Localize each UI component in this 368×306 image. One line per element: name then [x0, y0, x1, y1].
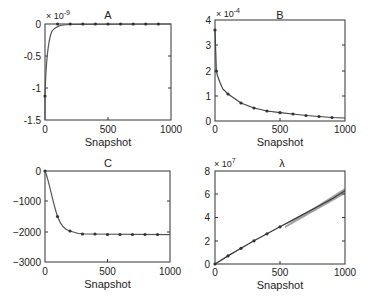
panel-b-title: B: [276, 9, 283, 21]
panel-a-markers: [43, 22, 160, 97]
panel-b-xlabel: Snapshot: [257, 136, 303, 148]
svg-text:6: 6: [204, 189, 210, 200]
svg-text:0: 0: [35, 19, 41, 30]
svg-text:-1: -1: [32, 83, 41, 94]
svg-text:0: 0: [204, 259, 210, 270]
svg-text:4: 4: [205, 15, 211, 26]
svg-text:-0.5: -0.5: [24, 51, 42, 62]
svg-text:0: 0: [212, 124, 218, 135]
svg-text:500: 500: [272, 124, 289, 135]
panel-b-markers: [213, 28, 333, 119]
panel-b-line: [215, 30, 345, 118]
svg-text:500: 500: [100, 124, 117, 135]
svg-text:500: 500: [99, 266, 116, 277]
panel-a-axes: [45, 24, 171, 120]
svg-text:2: 2: [204, 236, 210, 247]
svg-text:1000: 1000: [160, 124, 183, 135]
panel-lambda: × 107 λ 8 6 4 2 0 0 500 1000 Snapshot: [204, 157, 356, 291]
panel-b-yticks: 4 3 2 1 0: [205, 15, 345, 127]
panel-c-title: C: [104, 157, 112, 169]
panel-lambda-title: λ: [279, 157, 285, 169]
svg-text:−3000: −3000: [13, 257, 42, 268]
svg-text:4: 4: [204, 212, 210, 223]
panel-c-axes: [45, 171, 170, 262]
panel-a-multiplier: × 10-9: [46, 9, 70, 21]
panel-b: × 10-4 B 4 3 2 1 0 0 500 1000 Snapshot: [205, 7, 356, 148]
svg-text:−2000: −2000: [13, 227, 42, 238]
svg-text:1000: 1000: [334, 124, 357, 135]
panel-lambda-yticks: 8 6 4 2 0: [204, 166, 345, 270]
panel-a-xlabel: Snapshot: [85, 136, 131, 148]
svg-text:0: 0: [35, 166, 41, 177]
panel-c-xlabel: Snapshot: [84, 278, 130, 290]
svg-text:1000: 1000: [334, 267, 357, 278]
svg-text:0: 0: [42, 266, 48, 277]
svg-text:500: 500: [272, 267, 289, 278]
panel-a-line: [45, 24, 171, 96]
svg-text:3: 3: [205, 40, 211, 51]
svg-text:8: 8: [204, 166, 210, 177]
svg-text:1000: 1000: [159, 266, 182, 277]
panel-lambda-noise-band: [285, 188, 345, 228]
panel-a-title: A: [104, 9, 112, 21]
svg-text:1: 1: [205, 91, 211, 102]
svg-text:0: 0: [205, 116, 211, 127]
svg-text:−1000: −1000: [13, 196, 42, 207]
svg-text:0: 0: [212, 267, 218, 278]
figure: × 10-9 A 0 -0.5 -1 -1.5 0 500 1000 Snaps…: [0, 0, 368, 306]
panel-b-axes: [215, 20, 345, 121]
panel-lambda-multiplier: × 107: [214, 157, 236, 169]
panel-c: C 0 −1000 −2000 −3000 0 500 1000 Snapsho…: [13, 157, 182, 290]
panel-c-yticks: 0 −1000 −2000 −3000: [13, 166, 170, 268]
panel-b-multiplier: × 10-4: [216, 7, 240, 19]
panel-c-markers: [43, 169, 159, 236]
svg-text:0: 0: [42, 124, 48, 135]
panel-lambda-xlabel: Snapshot: [257, 279, 303, 291]
panel-lambda-axes: [215, 171, 345, 264]
svg-text:-1.5: -1.5: [24, 115, 42, 126]
svg-text:2: 2: [205, 66, 211, 77]
panel-c-line: [45, 171, 170, 235]
panel-a: × 10-9 A 0 -0.5 -1 -1.5 0 500 1000 Snaps…: [24, 9, 183, 148]
